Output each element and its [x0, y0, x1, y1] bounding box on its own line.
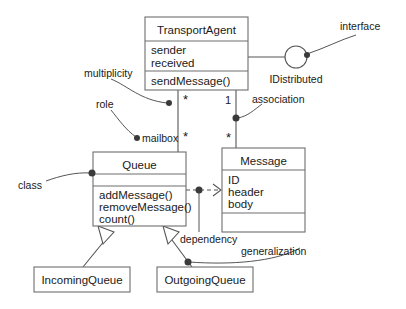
generalization-annotation-label: generalization: [241, 245, 307, 257]
multiplicity-annotation-label: multiplicity: [84, 67, 133, 79]
transportagent-attribute: received: [151, 57, 194, 69]
class-box-transportagent[interactable]: TransportAgent sender received sendMessa…: [145, 17, 248, 90]
multiplicity-agent-queue-top: *: [183, 92, 188, 107]
interface-leader-dot: [304, 52, 310, 58]
queue-operation: removeMessage(): [99, 201, 192, 213]
class-box-message[interactable]: Message ID header body: [222, 148, 305, 232]
dependency-queue-message: [186, 184, 221, 196]
class-box-incomingqueue[interactable]: IncomingQueue: [34, 267, 130, 292]
association-annotation-label: association: [252, 93, 305, 105]
generalization-arrowhead-incoming: [98, 226, 114, 244]
multiplicity-agent-message-star: *: [226, 130, 231, 145]
interface-leader-line: [307, 35, 356, 54]
generalization-incomingqueue-queue: [83, 226, 114, 267]
queue-name: Queue: [122, 159, 157, 171]
interface-name-label: IDistributed: [269, 73, 322, 85]
class-leader-line: [46, 173, 91, 181]
role-annotation-label: role: [96, 98, 114, 110]
generalization-arrowhead-outgoing: [163, 226, 179, 244]
incomingqueue-name: IncomingQueue: [41, 274, 122, 286]
interface-circle: [285, 46, 307, 68]
class-annotation-label: class: [18, 179, 42, 191]
uml-class-diagram: * * 1 * IDistributed: [0, 0, 406, 309]
class-box-outgoingqueue[interactable]: OutgoingQueue: [157, 267, 253, 292]
interface-annotation-label: interface: [340, 20, 380, 32]
annotation-interface: interface: [304, 20, 380, 58]
association-leader-line: [238, 104, 262, 118]
multiplicity-agent-queue-bottom: *: [183, 129, 188, 144]
transportagent-attribute: sender: [151, 44, 186, 56]
association-leader-dot: [233, 115, 240, 122]
outgoingqueue-name: OutgoingQueue: [164, 274, 245, 286]
multiplicity-agent-message-one: 1: [225, 94, 231, 106]
annotation-generalization: generalization: [185, 245, 307, 266]
mailbox-role-label: mailbox: [142, 132, 179, 144]
queue-operation: addMessage(): [99, 189, 173, 201]
interface-lollipop-idistributed: IDistributed: [248, 46, 323, 85]
message-attribute: body: [228, 198, 253, 210]
role-leader-line: [111, 110, 136, 137]
transportagent-operation: sendMessage(): [151, 75, 230, 87]
queue-operation: count(): [99, 213, 135, 225]
message-attribute: header: [228, 186, 264, 198]
generalization-leader-dot: [185, 259, 192, 266]
message-name: Message: [240, 155, 287, 167]
transportagent-name: TransportAgent: [157, 24, 237, 36]
multiplicity-leader-dot: [166, 100, 172, 106]
dependency-annotation-label: dependency: [180, 233, 238, 245]
class-box-queue[interactable]: Queue addMessage() removeMessage() count…: [93, 152, 192, 226]
generalization-line-incoming: [83, 240, 105, 267]
class-leader-dot: [89, 170, 96, 177]
annotation-role: role: [96, 98, 140, 141]
annotation-mailbox: mailbox: [142, 132, 179, 144]
role-leader-dot: [134, 135, 140, 141]
association-agent-queue: * *: [178, 90, 188, 152]
annotation-association: association: [233, 93, 305, 122]
message-attribute: ID: [228, 174, 240, 186]
dependency-leader-dot: [196, 187, 203, 194]
diagram-canvas: * * 1 * IDistributed: [0, 0, 406, 309]
annotation-class: class: [18, 170, 96, 192]
